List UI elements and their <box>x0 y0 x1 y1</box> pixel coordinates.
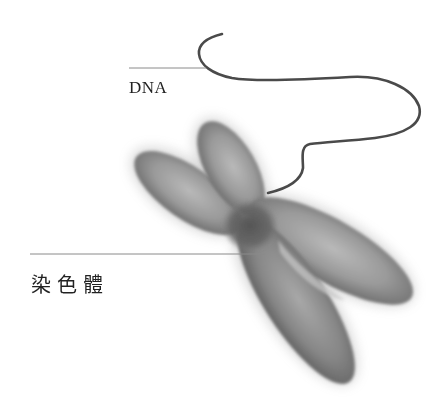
chromosome-diagram: DNA 染色體 <box>0 0 448 402</box>
chromosome-label: 染色體 <box>31 269 109 298</box>
diagram-canvas <box>0 0 448 402</box>
dna-label: DNA <box>129 78 167 98</box>
centromere <box>222 200 278 252</box>
